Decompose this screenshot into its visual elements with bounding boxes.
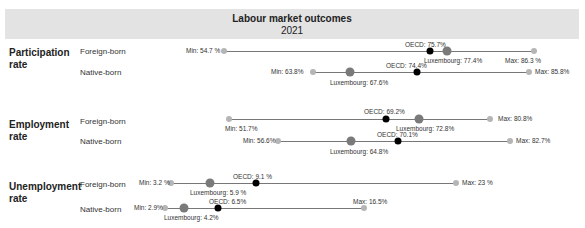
luxembourg-label: Luxembourg: 67.6%	[330, 79, 388, 87]
max-marker	[453, 180, 459, 186]
range-line	[224, 51, 534, 52]
panel-label-unemployment: Unemployment rate	[9, 181, 81, 205]
oecd-label: OECD: 70.1%	[377, 131, 418, 139]
oecd-label: OECD: 75.7%	[405, 41, 446, 49]
oecd-label: OECD: 9.1 %	[233, 173, 272, 181]
min-label: Min: 3.2 %	[139, 179, 170, 187]
min-label: Min: 56.6%	[243, 137, 276, 145]
panel-label-line1: Employment	[9, 119, 69, 131]
min-marker	[221, 48, 227, 54]
chart-title: Labour market outcomes	[5, 13, 579, 25]
luxembourg-marker	[206, 179, 215, 188]
max-label: Max: 85.8%	[535, 68, 569, 76]
min-label: Min: 2.9%	[134, 204, 163, 212]
panel-label-employment: Employment rate	[9, 119, 69, 143]
row-label-employment-foreign: Foreign-born	[80, 117, 126, 127]
row-label-unemployment-foreign: Foreign-born	[80, 180, 126, 190]
min-label: Min: 51.7%	[225, 125, 258, 133]
row-label-participation-foreign: Foreign-born	[80, 47, 126, 57]
luxembourg-marker	[180, 204, 189, 213]
oecd-label: OECD: 74.4%	[386, 62, 427, 70]
luxembourg-marker	[346, 68, 355, 77]
oecd-label: OECD: 69.2%	[364, 108, 405, 116]
max-label: Max: 80.8%	[498, 115, 532, 123]
max-marker	[507, 138, 513, 144]
max-label: Max: 82.7%	[516, 137, 550, 145]
chart-subtitle: 2021	[5, 25, 579, 37]
row-label-employment-native: Native-born	[80, 137, 121, 147]
max-marker	[531, 48, 537, 54]
row-label-unemployment-native: Native-born	[80, 205, 121, 215]
min-marker	[226, 116, 232, 122]
oecd-label: OECD: 6.5%	[209, 198, 246, 206]
max-label: Max: 23 %	[462, 179, 493, 187]
min-label: Min: 54.7 %	[186, 47, 220, 55]
luxembourg-label: Luxembourg: 5.9 %	[190, 189, 246, 197]
panel-label-line1: Unemployment	[9, 181, 81, 193]
luxembourg-marker	[415, 115, 424, 124]
min-label: Min: 63.8%	[271, 68, 304, 76]
panel-label-line2: rate	[9, 59, 70, 71]
max-label: Max: 86.3 %	[505, 57, 541, 65]
panel-label-line2: rate	[9, 131, 69, 143]
chart-header: Labour market outcomes 2021	[5, 9, 579, 39]
luxembourg-marker	[347, 137, 356, 146]
luxembourg-label: Luxembourg: 77.4%	[424, 57, 482, 65]
max-label: Max: 16.5%	[353, 198, 387, 206]
panel-label-line2: rate	[9, 193, 81, 205]
max-marker	[526, 69, 532, 75]
panel-label-line1: Participation	[9, 47, 70, 59]
range-line	[165, 208, 364, 209]
max-marker	[487, 116, 493, 122]
luxembourg-label: Luxembourg: 4.2%	[164, 214, 219, 222]
luxembourg-label: Luxembourg: 64.8%	[330, 148, 388, 156]
min-marker	[310, 69, 316, 75]
row-label-participation-native: Native-born	[80, 68, 121, 78]
panel-label-participation: Participation rate	[9, 47, 70, 71]
oecd-marker	[383, 116, 390, 123]
range-line	[229, 119, 490, 120]
